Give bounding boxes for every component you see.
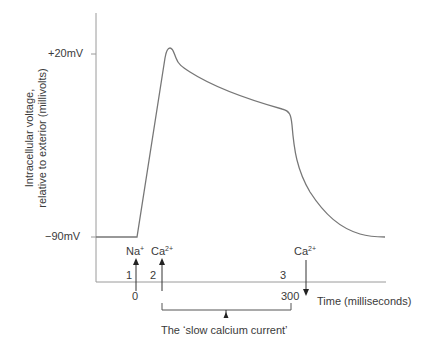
phase-1-label: 1 [126,270,132,281]
y-tick-label-minus90: −90mV [45,231,80,242]
arrowhead-up-icon [224,312,229,318]
x-tick-label-0: 0 [132,291,138,302]
y-tick-label-plus20: +20mV [48,48,83,59]
x-tick-label-300: 300 [281,291,299,302]
slow-calcium-bracket [162,303,291,310]
y-axis-label: Intracellular voltage, relative to exter… [23,38,51,238]
phase-3-label: 3 [280,270,286,281]
phase-2-label: 2 [150,270,156,281]
ca-in-ion-label: Ca2+ [151,245,173,257]
arrowhead-up-icon [159,258,165,265]
arrowhead-up-icon [133,258,139,265]
y-axis-label-line-2: relative to exterior (millivolts) [36,38,49,238]
y-axis-label-line-1: Intracellular voltage, [23,38,36,238]
x-axis-label: Time (milliseconds) [317,296,411,307]
action-potential-curve [96,48,385,237]
na-ion-label: Na+ [126,245,144,257]
slow-calcium-current-label: The ‘slow calcium current’ [161,325,288,336]
ca-out-ion-label: Ca2+ [294,245,316,257]
arrowhead-down-icon [303,289,309,296]
